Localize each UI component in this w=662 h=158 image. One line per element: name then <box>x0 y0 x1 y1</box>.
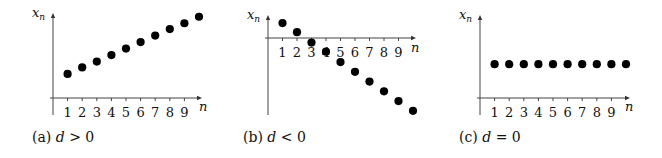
data-point <box>622 60 630 68</box>
data-point <box>380 87 388 95</box>
x-tick-label: 9 <box>180 105 188 120</box>
panel-a: xnn123456789(a) d > 0 <box>32 5 207 145</box>
y-axis-arrow-icon <box>51 13 55 18</box>
x-tick-label: 9 <box>607 105 615 120</box>
data-point <box>593 60 601 68</box>
x-tick-label: 5 <box>336 45 344 60</box>
y-axis-label: xn <box>32 5 45 22</box>
panel-caption: (a) d > 0 <box>32 129 94 145</box>
data-point <box>180 19 188 27</box>
x-tick-label: 2 <box>78 105 86 120</box>
y-axis-arrow-icon <box>478 15 482 20</box>
data-point <box>549 60 557 68</box>
x-tick-label: 3 <box>307 45 315 60</box>
x-tick-label: 7 <box>151 105 159 120</box>
data-point <box>409 107 417 115</box>
data-point <box>122 45 130 53</box>
data-point <box>307 38 315 46</box>
panel-b: xnn123456789(b) d < 0 <box>243 7 419 145</box>
x-tick-label: 8 <box>166 105 174 120</box>
x-tick-label: 2 <box>505 105 513 120</box>
data-point <box>336 58 344 66</box>
data-point <box>78 63 86 71</box>
y-axis-label: xn <box>459 7 472 24</box>
data-point <box>365 77 373 85</box>
x-tick-label: 8 <box>593 105 601 120</box>
x-axis-label: n <box>199 99 207 114</box>
x-axis-label: n <box>625 99 633 114</box>
x-tick-label: 4 <box>534 105 542 120</box>
panel-c: xnn123456789(c) d = 0 <box>459 7 633 145</box>
panel-caption: (c) d = 0 <box>459 129 521 145</box>
data-point <box>394 97 402 105</box>
data-point <box>93 58 101 66</box>
data-point <box>578 60 586 68</box>
data-point <box>564 60 572 68</box>
data-point <box>351 68 359 76</box>
x-tick-label: 7 <box>578 105 586 120</box>
x-tick-label: 1 <box>278 45 286 60</box>
x-tick-label: 6 <box>351 45 359 60</box>
data-point <box>166 25 174 33</box>
panel-caption: (b) d < 0 <box>243 129 306 145</box>
data-point <box>505 60 513 68</box>
x-axis-label: n <box>411 40 419 55</box>
data-point <box>322 48 330 56</box>
data-point <box>137 38 145 46</box>
x-tick-label: 2 <box>293 45 301 60</box>
x-tick-label: 3 <box>520 105 528 120</box>
y-axis-label: xn <box>247 7 260 24</box>
data-point <box>520 60 528 68</box>
data-point <box>195 13 203 21</box>
x-tick-label: 1 <box>490 105 498 120</box>
x-tick-label: 9 <box>394 45 402 60</box>
x-tick-label: 6 <box>136 105 144 120</box>
x-tick-label: 8 <box>380 45 388 60</box>
x-tick-label: 5 <box>122 105 130 120</box>
x-tick-label: 1 <box>63 105 71 120</box>
x-tick-label: 3 <box>93 105 101 120</box>
data-point <box>534 60 542 68</box>
data-point <box>107 51 115 59</box>
x-tick-label: 6 <box>563 105 571 120</box>
data-point <box>607 60 615 68</box>
x-tick-label: 5 <box>549 105 557 120</box>
x-tick-label: 4 <box>107 105 115 120</box>
data-point <box>278 19 286 27</box>
y-axis-arrow-icon <box>266 15 270 20</box>
data-point <box>491 60 499 68</box>
x-tick-label: 7 <box>365 45 373 60</box>
data-point <box>151 31 159 39</box>
arithmetic-sequence-figure: xnn123456789(a) d > 0 xnn123456789(b) d … <box>0 0 662 158</box>
data-point <box>64 70 72 78</box>
data-point <box>293 28 301 36</box>
